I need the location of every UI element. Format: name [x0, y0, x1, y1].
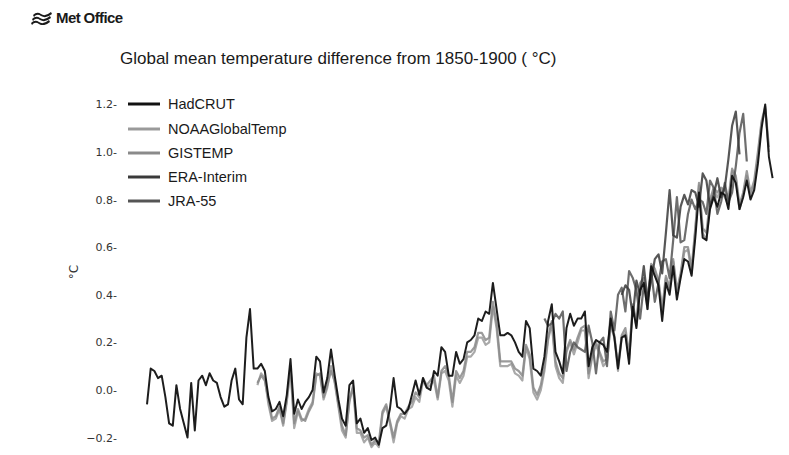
- y-tick-label: 0.8-: [96, 194, 117, 207]
- series-line-jra-55: [544, 114, 746, 373]
- legend-item-gistemp: GISTEMP: [128, 145, 233, 161]
- y-tick-label: 1.2-: [96, 98, 117, 111]
- y-tick-label: 0.0-: [96, 384, 117, 397]
- series-lines: [147, 104, 773, 447]
- legend-item-jra-55: JRA-55: [128, 193, 216, 209]
- legend-label: NOAAGlobalTemp: [168, 121, 286, 137]
- legend-label: ERA-Interim: [168, 169, 247, 185]
- y-tick-label: 0.4-: [96, 289, 117, 302]
- y-tick-label: 0.6-: [96, 241, 117, 254]
- y-tick-label: −0.2-: [86, 432, 117, 445]
- legend-item-noaaglobaltemp: NOAAGlobalTemp: [128, 121, 286, 137]
- legend-label: JRA-55: [168, 193, 216, 209]
- y-tick-label: 1.0-: [96, 146, 117, 159]
- legend-label: GISTEMP: [168, 145, 233, 161]
- y-axis-label: °C: [67, 265, 81, 279]
- y-tick-label: 0.2-: [96, 336, 117, 349]
- legend: HadCRUTNOAAGlobalTempGISTEMPERA-InterimJ…: [128, 96, 286, 209]
- y-axis: −0.2-0.0-0.2-0.4-0.6-0.8-1.0-1.2-: [86, 98, 117, 444]
- legend-item-era-interim: ERA-Interim: [128, 169, 247, 185]
- series-line-hadcrut: [147, 104, 773, 444]
- chart-plot: −0.2-0.0-0.2-0.4-0.6-0.8-1.0-1.2- °C Had…: [0, 0, 789, 455]
- series-line-noaaglobaltemp: [257, 109, 769, 447]
- legend-label: HadCRUT: [168, 96, 235, 112]
- legend-item-hadcrut: HadCRUT: [128, 96, 235, 112]
